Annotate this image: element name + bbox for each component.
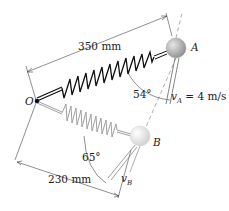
mass-a-label: A (191, 42, 199, 53)
dimension-350-label: 350 mm (78, 41, 121, 52)
mass-b (130, 126, 150, 146)
pivot-label: O (25, 96, 34, 107)
pivot-point (35, 99, 40, 104)
dimension-350-line (26, 13, 172, 100)
velocity-b-subscript: B (127, 179, 132, 187)
velocity-a-value: = 4 m/s (182, 90, 226, 102)
velocity-b-label: vB (121, 173, 132, 184)
mass-a (166, 38, 186, 58)
diagram-canvas (0, 0, 229, 211)
spring-b (37, 101, 131, 137)
spring-mass-diagram: O A B 350 mm 230 mm 54° 65° vA = 4 m/s v… (0, 0, 229, 211)
angle-65-label: 65° (82, 152, 101, 163)
angle-54-label: 54° (133, 89, 152, 100)
velocity-a-label: vA = 4 m/s (171, 91, 226, 102)
dimension-230-label: 230 mm (48, 174, 91, 185)
mass-b-label: B (153, 137, 161, 148)
velocity-a-subscript: A (177, 97, 182, 105)
